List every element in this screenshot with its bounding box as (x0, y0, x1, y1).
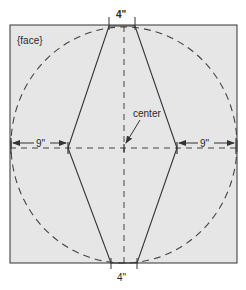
face-pattern-diagram: {face} center 4" 4" 9" 9" (0, 0, 246, 290)
panel-label: {face} (17, 35, 43, 46)
bottom-dimension-label: 4" (117, 272, 127, 283)
right-dimension-label: 9" (200, 138, 210, 149)
left-dimension-label: 9" (36, 138, 46, 149)
center-label: center (133, 108, 161, 119)
top-dimension-label: 4" (116, 9, 127, 20)
